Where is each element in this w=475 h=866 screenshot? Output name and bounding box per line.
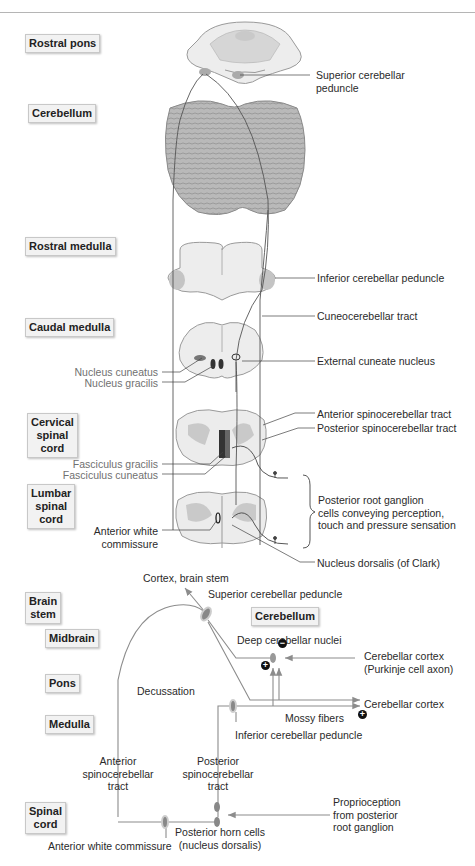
cerebellum-section [165, 101, 305, 215]
posterior-horn-node-upper [214, 802, 220, 812]
lumbar-cord-section [176, 492, 267, 548]
label-anterior-spinocerebellar-tract: Anterior spinocerebellar tract [317, 408, 451, 421]
tag-pons: Pons [45, 674, 80, 693]
label-external-cuneate-nucleus: External cuneate nucleus [317, 355, 435, 368]
label-posterior-root-ganglion: Posterior root ganglion cells conveying … [318, 494, 456, 532]
label-posterior-spinocerebellar-tract-schematic: Posterior spinocerebellar tract [178, 755, 258, 793]
caudal-medulla-section [179, 322, 263, 378]
excitatory-sign-deep-icon: + [261, 661, 270, 670]
label-mossy-fibers: Mossy fibers [285, 712, 344, 725]
tag-caudal-medulla: Caudal medulla [25, 318, 114, 337]
tag-brain-stem: Brain stem [25, 592, 61, 624]
inferior-peduncle-node [230, 700, 236, 712]
superior-peduncle-node [199, 606, 213, 622]
label-decussation: Decussation [137, 685, 195, 698]
tag-medulla: Medulla [45, 715, 94, 734]
commissure-node [162, 816, 168, 828]
label-cuneocerebellar-tract: Cuneocerebellar tract [317, 310, 417, 323]
label-superior-cerebellar-peduncle: Superior cerebellar peduncle [316, 69, 405, 94]
tag-rostral-pons: Rostral pons [25, 34, 100, 53]
tag-cerebellum: Cerebellum [28, 104, 96, 123]
inhibitory-sign-icon: − [278, 639, 287, 648]
label-superior-cerebellar-peduncle-schematic: Superior cerebellar peduncle [208, 588, 342, 601]
label-anterior-white-commissure-schematic: Anterior white commissure [48, 840, 172, 853]
cervical-cord-section [176, 410, 266, 466]
label-posterior-spinocerebellar-tract: Posterior spinocerebellar tract [317, 422, 456, 435]
label-posterior-horn-cells: Posterior horn cells (nucleus dorsalis) [170, 826, 270, 851]
rostral-medulla-section [168, 242, 275, 300]
label-deep-cerebellar-nuclei: Deep cerebellar nuclei [237, 634, 341, 647]
tag-cerebellum-schematic: Cerebellum [251, 607, 319, 626]
label-inferior-cerebellar-peduncle: Inferior cerebellar peduncle [317, 272, 444, 285]
tag-rostral-medulla: Rostral medulla [25, 237, 116, 256]
rostral-pons-section [187, 22, 301, 84]
label-inferior-cerebellar-peduncle-schematic: Inferior cerebellar peduncle [235, 729, 362, 742]
label-nucleus-gracilis: Nucleus gracilis [84, 377, 158, 390]
label-cortex-brain-stem: Cortex, brain stem [143, 572, 229, 585]
label-fasciculus-cuneatus: Fasciculus cuneatus [63, 469, 158, 482]
label-cerebellar-cortex: Cerebellar cortex [364, 698, 444, 711]
label-anterior-white-commissure: Anterior white commissure [94, 525, 158, 550]
label-proprioception: Proprioception from posterior root gangl… [333, 796, 401, 834]
label-anterior-spinocerebellar-tract-schematic: Anterior spinocerebellar tract [78, 755, 158, 793]
excitatory-sign-cortex-icon: + [358, 710, 367, 719]
deep-nuclei-node [270, 653, 276, 663]
label-nucleus-dorsalis: Nucleus dorsalis (of Clark) [317, 557, 440, 570]
tag-lumbar-spinal-cord: Lumbar spinal cord [27, 484, 75, 529]
tag-spinal-cord: Spinal cord [25, 802, 66, 834]
tag-cervical-spinal-cord: Cervical spinal cord [27, 413, 78, 458]
tag-midbrain: Midbrain [45, 629, 99, 648]
label-purkinje-axon: Cerebellar cortex (Purkinje cell axon) [364, 650, 453, 675]
